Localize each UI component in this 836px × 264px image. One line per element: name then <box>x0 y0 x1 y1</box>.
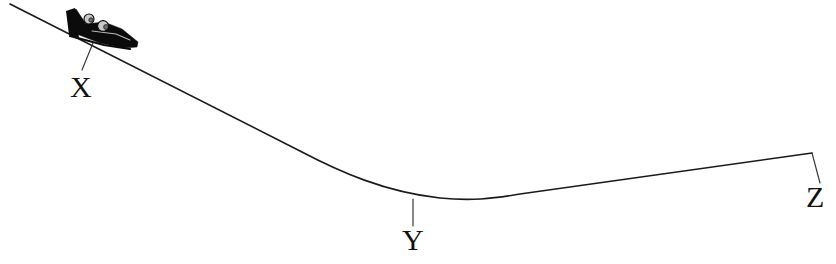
track-profile-diagram: X Y Z <box>0 0 836 264</box>
point-label-x: X <box>70 70 92 103</box>
point-label-y: Y <box>402 223 424 256</box>
rider-visor-front <box>104 25 109 30</box>
rider-visor-rear <box>89 18 93 22</box>
point-label-z: Z <box>806 180 824 213</box>
figure-root: X Y Z <box>0 0 836 264</box>
